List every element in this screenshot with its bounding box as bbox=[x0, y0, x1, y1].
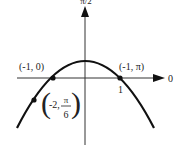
up-arrow-icon bbox=[81, 6, 89, 17]
tick-label-1: 1 bbox=[118, 84, 123, 95]
label-minus1-pi: (-1, π) bbox=[119, 61, 144, 73]
point-minus1-0 bbox=[50, 75, 55, 80]
point-minus1-pi bbox=[117, 75, 122, 80]
point-minus2-pi6 bbox=[31, 97, 36, 102]
label-prefix: -2, bbox=[49, 99, 60, 110]
label-denominator: 6 bbox=[64, 109, 69, 120]
axis-right-label: 0 bbox=[168, 73, 173, 84]
axis-top-label: π/2 bbox=[80, 0, 92, 6]
right-arrow-icon bbox=[153, 74, 165, 82]
right-paren: ) bbox=[71, 86, 81, 120]
label-minus1-0: (-1, 0) bbox=[19, 61, 44, 73]
label-numerator: π bbox=[64, 95, 69, 105]
polar-graph: π/2 0 (-1, 0) (-1, π) 1 ( -2, π 6 ) bbox=[0, 0, 186, 152]
